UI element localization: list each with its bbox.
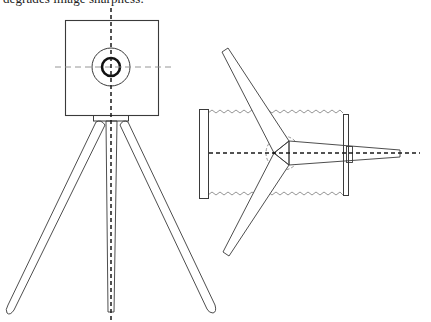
vertex-dot — [273, 152, 276, 155]
leg-upper — [222, 48, 289, 153]
front-plate — [200, 110, 209, 199]
tripod-leg-left — [6, 121, 105, 314]
camera-body — [66, 21, 159, 116]
tripod-top-view-schematic — [200, 48, 421, 256]
bellows-top — [208, 110, 343, 113]
camera-on-tripod-front-view — [6, 8, 215, 322]
leg-lower — [223, 153, 289, 256]
technical-illustration — [0, 0, 431, 322]
bellows-bottom — [208, 192, 343, 195]
